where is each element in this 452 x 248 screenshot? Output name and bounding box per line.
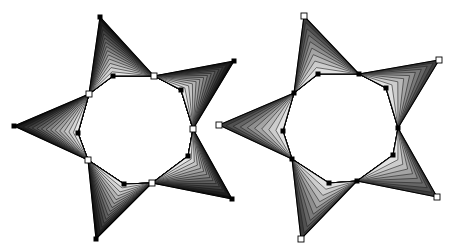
left-star-side-handle[interactable] <box>85 157 91 163</box>
left-star-tip-handle[interactable] <box>12 124 17 129</box>
right-star-side-handle[interactable] <box>396 126 401 131</box>
right-star-side-handle[interactable] <box>292 91 297 96</box>
right-star-side-handle[interactable] <box>357 72 362 77</box>
right-star-inner-handle[interactable] <box>316 72 321 77</box>
right-star-arm-3 <box>357 128 437 197</box>
right-star-shape <box>216 13 442 242</box>
left-star-tip-handle[interactable] <box>98 15 103 20</box>
left-star-arm-2 <box>154 61 234 129</box>
left-star-side-handle[interactable] <box>151 73 157 79</box>
right-star-arm-5 <box>219 93 294 159</box>
right-star-tip-handle[interactable] <box>436 57 442 63</box>
left-star-arm-4 <box>88 160 152 239</box>
right-star-inner-handle[interactable] <box>281 129 286 134</box>
right-star-arm-1 <box>294 16 359 93</box>
left-star-tip-handle[interactable] <box>232 59 237 64</box>
right-star-arm-2 <box>359 60 439 128</box>
left-star-side-handle[interactable] <box>149 180 155 186</box>
left-star-arm-1 <box>89 17 154 94</box>
right-star-inner-handle[interactable] <box>391 153 396 158</box>
left-star-inner-handle[interactable] <box>122 182 127 187</box>
right-star-arm-4 <box>292 159 357 239</box>
left-star-arm-5 <box>14 94 89 160</box>
diagram-canvas <box>0 0 452 248</box>
right-star-side-handle[interactable] <box>355 179 360 184</box>
right-star-tip-handle[interactable] <box>301 13 307 19</box>
star-diagram <box>0 0 452 248</box>
right-star-tip-handle[interactable] <box>298 236 304 242</box>
left-star-side-handle[interactable] <box>86 91 92 97</box>
left-star-shape <box>12 15 237 242</box>
left-star-arm-3 <box>152 129 232 199</box>
left-star-inner-handle[interactable] <box>186 154 191 159</box>
right-star-tip-handle[interactable] <box>216 122 222 128</box>
right-star-side-handle[interactable] <box>290 157 295 162</box>
right-star-inner-handle[interactable] <box>384 86 389 91</box>
left-star-tip-handle[interactable] <box>230 197 235 202</box>
right-star-inner-handle[interactable] <box>327 181 332 186</box>
left-star-inner-handle[interactable] <box>111 74 116 79</box>
left-star-inner-handle[interactable] <box>179 88 184 93</box>
left-star-tip-handle[interactable] <box>94 237 99 242</box>
left-star-inner-handle[interactable] <box>76 131 81 136</box>
left-star-side-handle[interactable] <box>190 126 196 132</box>
right-star-tip-handle[interactable] <box>434 194 440 200</box>
